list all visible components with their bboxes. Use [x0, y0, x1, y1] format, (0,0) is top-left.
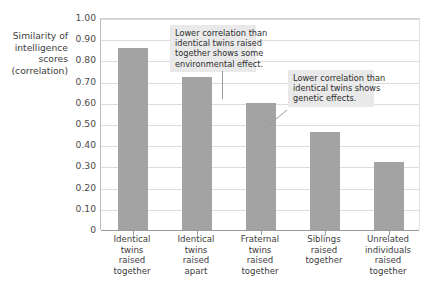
- bar: [374, 162, 404, 230]
- x-axis-label-line: raised: [164, 255, 228, 266]
- x-axis-label-line: twins: [100, 245, 164, 256]
- y-axis-title-line-2: intelligence: [2, 42, 68, 54]
- y-axis-tick-label: 0.10: [60, 204, 96, 213]
- y-axis-tick-label: 0.80: [60, 56, 96, 65]
- annotation-2-line-3: genetic effects.: [293, 93, 370, 103]
- x-axis-label-line: twins: [228, 245, 292, 256]
- annotation-1-line-4: environmental effect.: [175, 59, 252, 69]
- x-axis-label-line: raised: [292, 245, 356, 256]
- y-axis-tick-label: 0.40: [60, 141, 96, 150]
- x-axis-label-line: Unrelated: [356, 234, 420, 245]
- bar: [310, 132, 340, 230]
- annotation-2-line-2: identical twins shows: [293, 83, 370, 93]
- x-axis-label-line: together: [228, 266, 292, 277]
- y-axis-tick-label: 0.50: [60, 119, 96, 128]
- x-axis-label-line: raised: [100, 255, 164, 266]
- x-axis-label-line: together: [356, 266, 420, 277]
- y-axis-tick-label: 0.60: [60, 98, 96, 107]
- y-axis-tick-label: 0: [60, 225, 96, 234]
- x-axis-label-line: Fraternal: [228, 234, 292, 245]
- annotation-1-line-3: together shows some: [175, 48, 252, 58]
- x-axis-label-line: individuals: [356, 245, 420, 256]
- y-axis-tick-label: 1.00: [60, 13, 96, 22]
- y-axis-tick-label: 0.90: [60, 35, 96, 44]
- bar: [182, 77, 212, 230]
- bar: [246, 103, 276, 230]
- x-axis-category-label: Identicaltwinsraisedtogether: [100, 234, 164, 276]
- x-axis-category-label: Fraternaltwinsraisedtogether: [228, 234, 292, 276]
- y-axis-tick-label: 0.30: [60, 162, 96, 171]
- y-axis-title-line-3: scores: [2, 53, 68, 65]
- annotation-1-leader-line: [222, 71, 223, 99]
- x-axis-label-line: raised: [228, 255, 292, 266]
- annotation-environmental-effect: Lower correlation than identical twins r…: [170, 25, 256, 72]
- x-axis-label-line: together: [292, 255, 356, 266]
- annotation-1-line-1: Lower correlation than: [175, 28, 252, 38]
- x-axis-category-labels: IdenticaltwinsraisedtogetherIdenticaltwi…: [100, 234, 420, 284]
- x-axis-category-label: Identicaltwinsraisedapart: [164, 234, 228, 276]
- bar-chart-figure: Similarity of intelligence scores (corre…: [0, 0, 433, 284]
- x-axis-label-line: Identical: [100, 234, 164, 245]
- y-axis-title-line-1: Similarity of: [2, 30, 68, 42]
- x-axis-label-line: Identical: [164, 234, 228, 245]
- y-axis-title: Similarity of intelligence scores (corre…: [2, 30, 68, 76]
- x-axis-label-line: apart: [164, 266, 228, 277]
- bar: [118, 48, 148, 230]
- x-axis-label-line: twins: [164, 245, 228, 256]
- annotation-2-line-1: Lower correlation than: [293, 73, 370, 83]
- x-axis-category-label: Unrelatedindividualsraisedtogether: [356, 234, 420, 276]
- y-axis-tick-labels: 1.000.900.800.700.600.500.400.300.200.10…: [60, 18, 96, 230]
- x-axis-label-line: Siblings: [292, 234, 356, 245]
- annotation-1-line-2: identical twins raised: [175, 38, 252, 48]
- annotation-genetic-effects: Lower correlation than identical twins s…: [288, 70, 374, 107]
- y-axis-tick-label: 0.20: [60, 183, 96, 192]
- x-axis-category-label: Siblingsraisedtogether: [292, 234, 356, 266]
- y-axis-title-line-4: (correlation): [2, 65, 68, 77]
- x-axis-baseline: [101, 230, 419, 231]
- y-axis-tick-label: 0.70: [60, 77, 96, 86]
- x-axis-label-line: raised: [356, 255, 420, 266]
- x-axis-label-line: together: [100, 266, 164, 277]
